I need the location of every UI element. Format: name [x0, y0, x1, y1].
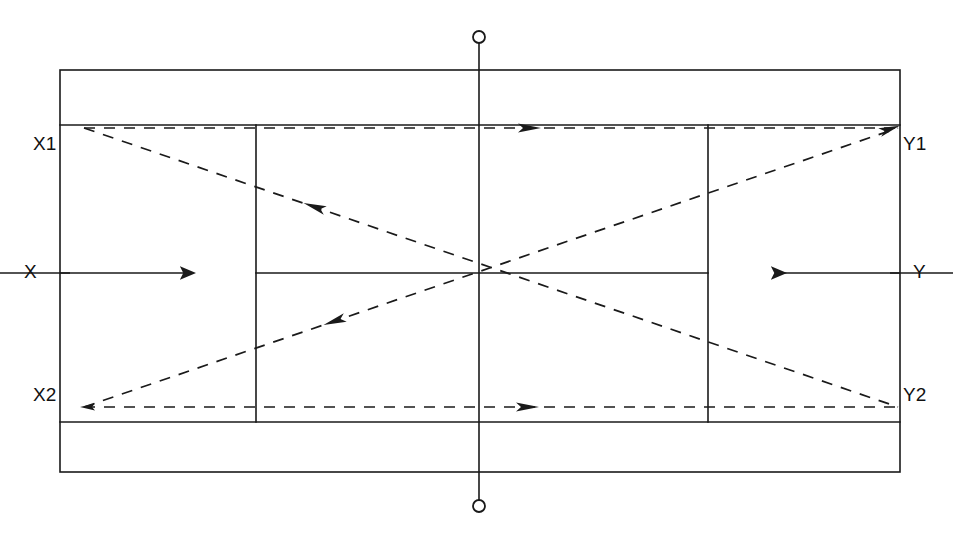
arrowhead-diagonal-descending-left [302, 199, 327, 215]
movement-paths [84, 128, 898, 407]
label-x1: X1 [33, 134, 56, 153]
net-post-bottom-icon [473, 500, 485, 512]
tennis-court-diagram: X1 X X2 Y1 Y Y2 [0, 0, 953, 538]
court-drawing-svg [0, 0, 953, 538]
label-y2: Y2 [903, 385, 926, 404]
arrowhead-ascending-end [878, 121, 901, 136]
arrowhead-bottom-right [516, 403, 539, 412]
label-y1: Y1 [903, 134, 926, 153]
court-solid-lines [60, 43, 900, 500]
label-x2: X2 [33, 385, 56, 404]
court-outer-boundary [60, 70, 900, 472]
arrowhead-diagonal-ascending-left [322, 313, 347, 329]
label-y: Y [913, 262, 926, 281]
label-x: X [24, 262, 37, 281]
net-post-top-icon [473, 31, 485, 43]
